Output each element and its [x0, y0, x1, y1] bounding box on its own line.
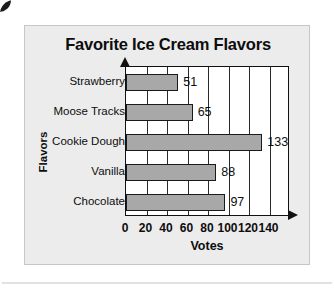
x-axis-title: Votes — [125, 239, 289, 253]
chart-card: Favorite Ice Cream Flavors Flavors Straw… — [24, 25, 310, 265]
category-axis-labels: StrawberryMoose TracksCookie DoughVanill… — [33, 66, 125, 216]
x-tick-label: 0 — [122, 221, 129, 235]
bar — [126, 194, 225, 211]
x-tick-label: 140 — [258, 221, 278, 235]
filled-circle-icon — [0, 0, 11, 12]
x-tick-label: 40 — [159, 221, 172, 235]
bar — [126, 104, 193, 121]
chart-title: Favorite Ice Cream Flavors — [25, 35, 311, 54]
x-axis-tick-labels: 020406080100120140 — [125, 221, 293, 237]
x-tick-label: 60 — [180, 221, 193, 235]
x-tick-label: 80 — [200, 221, 213, 235]
bar-value-label: 88 — [221, 166, 235, 179]
category-label: Moose Tracks — [33, 105, 125, 117]
x-tick-label: 20 — [139, 221, 152, 235]
category-label: Strawberry — [33, 75, 125, 87]
category-label: Vanilla — [33, 165, 125, 177]
page-canvas: Favorite Ice Cream Flavors Flavors Straw… — [0, 0, 334, 290]
x-tick-label: 120 — [238, 221, 258, 235]
x-tick-label: 100 — [217, 221, 237, 235]
bar-value-label: 133 — [267, 136, 288, 149]
category-label: Chocolate — [33, 195, 125, 207]
bar — [126, 74, 178, 91]
bar — [126, 134, 262, 151]
bar-value-label: 65 — [198, 106, 212, 119]
bar-value-label: 51 — [183, 76, 197, 89]
arrow-up-icon — [120, 57, 130, 67]
page-divider — [0, 282, 334, 284]
arrow-right-icon — [288, 210, 298, 220]
plot-area: 51651338897 — [125, 66, 289, 216]
bar — [126, 164, 216, 181]
category-label: Cookie Dough — [33, 135, 125, 147]
bar-value-label: 97 — [230, 196, 244, 209]
